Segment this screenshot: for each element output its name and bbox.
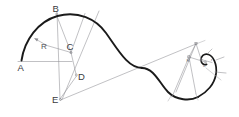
label-point-b: B xyxy=(53,3,59,14)
label-point-a: A xyxy=(18,62,25,73)
detail-line-r-down-left xyxy=(172,57,189,97)
label-point-d: D xyxy=(78,71,85,82)
ogee-curve-drawing: A B C D E R R r o xyxy=(0,0,239,117)
label-point-c: C xyxy=(67,41,74,52)
radius-arrowhead-left xyxy=(34,38,38,41)
detail-tick-upper xyxy=(208,49,212,53)
label-radius-left: R xyxy=(41,42,47,51)
label-point-e: E xyxy=(52,94,58,105)
construction-line-b-to-e xyxy=(57,12,60,99)
detail-tick-lower-left-ext xyxy=(168,96,171,101)
detail-tick-far-right-upper xyxy=(216,57,224,60)
construction-line-d-to-e xyxy=(60,76,77,99)
construction-line-c-to-d xyxy=(71,53,76,75)
diagram-canvas: A B C D E R R r o xyxy=(0,0,239,117)
detail-line-r-down-right xyxy=(189,57,196,94)
main-curve-lower-arc xyxy=(142,68,198,99)
detail-line-r-to-node xyxy=(189,57,205,62)
construction-chord-extension xyxy=(196,41,205,45)
detail-line-apex-to-center xyxy=(196,44,201,60)
label-radius-right: R xyxy=(187,58,190,63)
detail-tick-diagonal xyxy=(206,68,221,80)
node-d xyxy=(75,74,77,76)
